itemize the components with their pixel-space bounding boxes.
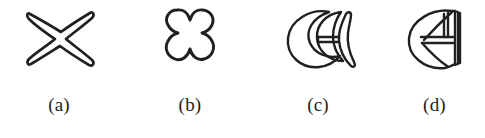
panel-d-caption: (d) xyxy=(384,93,485,117)
figure-panel-c: (c) xyxy=(259,0,377,138)
panel-c-caption: (c) xyxy=(259,93,377,117)
d-shape-with-internal-bars xyxy=(400,4,472,74)
figure-panel-b: (b) xyxy=(131,0,249,138)
panel-a-caption: (a) xyxy=(0,93,118,117)
figure-panel-a: (a) xyxy=(0,0,118,138)
panel-b-caption: (b) xyxy=(131,93,249,117)
figure-panel-d: (d) xyxy=(384,0,485,138)
four-lobed-clover-outline-shape xyxy=(161,6,219,68)
x-cross-outline-shape xyxy=(22,6,100,72)
shape-figure: (a) (b) xyxy=(0,0,485,138)
crescent-with-nested-crescent-and-fin-shape xyxy=(281,4,361,74)
